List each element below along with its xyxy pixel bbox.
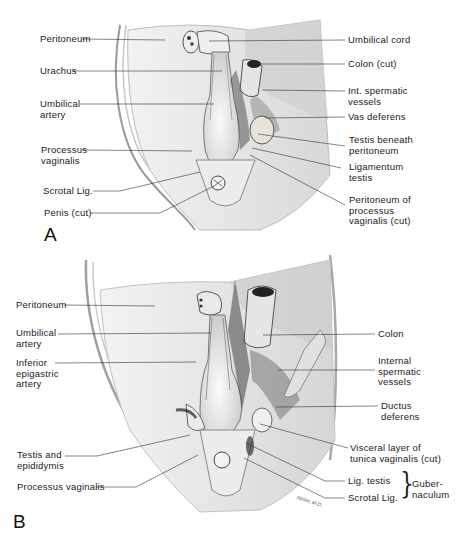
label-testis-and-epididymis: Testis and epididymis	[17, 450, 64, 471]
label-penis-cut: Penis (cut)	[44, 208, 92, 219]
label-peritoneum-b: Peritoneum	[16, 300, 67, 311]
label-peritoneum: Peritoneum	[40, 34, 91, 45]
panel-b: Peritoneum Umbilical artery Inferior epi…	[0, 250, 459, 541]
label-umbilical-artery-b: Umbilical artery	[16, 328, 56, 349]
label-visceral-layer-tunica-vaginalis: Visceral layer of tunica vaginalis (cut)	[350, 443, 441, 464]
label-lig-testis: Lig. testis	[348, 476, 390, 487]
label-umbilical-cord: Umbilical cord	[348, 35, 410, 46]
label-internal-spermatic-vessels: Internal spermatic vessels	[378, 356, 421, 388]
label-colon: Colon	[378, 329, 404, 340]
panel-letter-a: A	[44, 224, 57, 246]
label-ductus-deferens: Ductus deferens	[381, 401, 420, 422]
label-vas-deferens: Vas deferens	[348, 112, 406, 123]
label-scrotal-ligament: Scrotal Lig.	[43, 186, 93, 197]
panel-letter-b: B	[13, 511, 26, 533]
label-inferior-epigastric-artery: Inferior epigastric artery	[16, 358, 59, 390]
label-int-spermatic-vessels: Int. spermatic vessels	[348, 86, 408, 107]
label-umbilical-artery: Umbilical artery	[40, 99, 80, 120]
label-urachus: Urachus	[40, 66, 77, 77]
label-testis-beneath-peritoneum: Testis beneath peritoneum	[349, 135, 413, 156]
label-gubernaculum: Guber- naculum	[412, 479, 449, 500]
label-colon-cut: Colon (cut)	[348, 59, 397, 70]
panel-a: Peritoneum Urachus Umbilical artery Proc…	[0, 0, 459, 250]
label-scrotal-ligament-b: Scrotal Lig.	[348, 493, 398, 504]
label-peritoneum-processus-vaginalis-cut: Peritoneum of processus vaginalis (cut)	[349, 195, 411, 227]
label-ligamentum-testis: Ligamentum testis	[349, 162, 403, 183]
label-processus-vaginalis: Processus vaginalis	[41, 145, 87, 166]
label-processus-vaginalis-b: Processus vaginalis	[17, 482, 105, 493]
